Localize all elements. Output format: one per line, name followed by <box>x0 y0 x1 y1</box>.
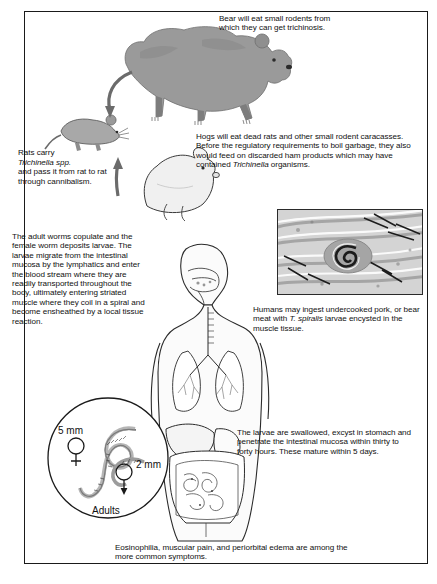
symptoms-caption: Eosinophilia, muscular pain, and periorb… <box>115 543 365 562</box>
hogs-caption-part2: organisms. <box>269 160 310 169</box>
female-size-label: 5 mm <box>58 425 83 436</box>
humans-caption-species: T. spiralis <box>289 314 322 323</box>
rats-caption-line1: Rats carry <box>18 148 54 157</box>
rats-caption: Rats carry Trichinella spp. and pass it … <box>18 139 114 186</box>
adults-label: Adults <box>92 505 120 516</box>
bear-illustration <box>106 22 296 132</box>
male-size-label: 2 mm <box>136 459 161 470</box>
humans-caption: Humans may ingest undercooked pork, or b… <box>253 305 425 333</box>
larvae-caption: The larvae are swallowed, excyst in stom… <box>237 428 415 456</box>
encysted-larva-micrograph <box>277 209 423 295</box>
adult-worms-caption: The adult worms copulate and the female … <box>12 232 152 326</box>
rats-caption-species: Trichinella spp. <box>18 158 71 167</box>
bear-caption: Bear will eat small rodents from which t… <box>219 14 351 33</box>
rats-caption-rest: and pass it from rat to rat through cann… <box>18 167 107 185</box>
hogs-caption-species: Trichinella <box>233 160 269 169</box>
hogs-caption: Hogs will eat dead rats and other small … <box>196 132 418 170</box>
figure-canvas: 5 mm 2 mm Adults Bear will eat small rod… <box>0 0 437 584</box>
adult-worms-illustration: 5 mm 2 mm Adults <box>40 396 176 532</box>
